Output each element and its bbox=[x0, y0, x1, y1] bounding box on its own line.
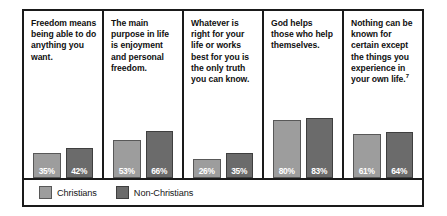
footnote-marker: 7 bbox=[406, 73, 409, 79]
legend-item-christians: Christians bbox=[39, 186, 97, 199]
bar-value-label: 66% bbox=[147, 166, 173, 176]
bar-value-label: 53% bbox=[114, 166, 140, 176]
bar-value-label: 42% bbox=[67, 166, 93, 176]
bar-value-label: 35% bbox=[227, 166, 253, 176]
bar-non-christians: 42% bbox=[66, 148, 94, 178]
bar-value-label: 80% bbox=[274, 166, 300, 176]
bar-value-label: 61% bbox=[354, 166, 380, 176]
bar-value-label: 35% bbox=[34, 166, 60, 176]
legend-swatch-icon bbox=[116, 186, 129, 199]
bar-value-label: 83% bbox=[307, 166, 333, 176]
bar-value-label: 64% bbox=[387, 166, 413, 176]
bar-group: 53% 66% bbox=[104, 92, 182, 178]
statement-panel: God helps those who help themselves. 80%… bbox=[264, 11, 344, 178]
statement-text: Freedom means being able to do anything … bbox=[31, 18, 97, 63]
statement-text: Nothing can be known for certain except … bbox=[351, 18, 417, 85]
bar-non-christians: 83% bbox=[306, 118, 334, 178]
bar-group: 26% 35% bbox=[184, 92, 262, 178]
bar-group: 80% 83% bbox=[264, 92, 342, 178]
bar-christians: 53% bbox=[113, 140, 141, 178]
statement-panels: Freedom means being able to do anything … bbox=[24, 11, 422, 178]
statement-panel: Whatever is right for your life or works… bbox=[184, 11, 264, 178]
legend-swatch-icon bbox=[39, 186, 52, 199]
statement-panel: Nothing can be known for certain except … bbox=[344, 11, 422, 178]
bar-christians: 61% bbox=[353, 134, 381, 178]
bar-group: 61% 64% bbox=[344, 92, 422, 178]
statement-text: The main purpose in life is enjoyment an… bbox=[111, 18, 177, 74]
chart-container: Freedom means being able to do anything … bbox=[22, 9, 424, 207]
chart-legend: Christians Non-Christians bbox=[24, 180, 422, 205]
bar-group: 35% 42% bbox=[24, 92, 102, 178]
bar-christians: 35% bbox=[33, 153, 61, 178]
legend-label: Christians bbox=[57, 188, 97, 198]
statement-text: God helps those who help themselves. bbox=[271, 18, 337, 52]
bar-value-label: 26% bbox=[194, 166, 220, 176]
statement-panel: Freedom means being able to do anything … bbox=[24, 11, 104, 178]
statement-panel: The main purpose in life is enjoyment an… bbox=[104, 11, 184, 178]
legend-item-non-christians: Non-Christians bbox=[116, 186, 193, 199]
bar-non-christians: 35% bbox=[226, 153, 254, 178]
bar-non-christians: 64% bbox=[386, 132, 414, 178]
legend-label: Non-Christians bbox=[134, 188, 193, 198]
statement-text: Whatever is right for your life or works… bbox=[191, 18, 257, 85]
bar-non-christians: 66% bbox=[146, 131, 174, 179]
bar-christians: 26% bbox=[193, 159, 221, 178]
bar-christians: 80% bbox=[273, 120, 301, 178]
